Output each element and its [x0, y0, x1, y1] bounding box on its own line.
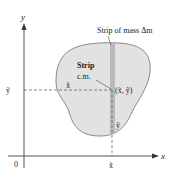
x-tilde-axis-label: x̃ — [109, 161, 113, 170]
y-axis-arrow-icon — [22, 23, 27, 30]
x-axis-arrow-icon — [152, 154, 159, 159]
x-tilde-inside-label: x̃ — [66, 81, 70, 90]
strip-cm-label-line2: c.m. — [77, 72, 91, 81]
plate-region — [56, 43, 150, 136]
strip-cm-label-line1: Strip — [77, 61, 95, 70]
x-axis-label: x — [160, 151, 165, 161]
y-axis-label: y — [20, 12, 25, 22]
y-tilde-axis-label: ỹ — [6, 86, 10, 95]
y-tilde-inside-label: ỹ — [116, 121, 120, 130]
strip-mass-label: Strip of mass Δm — [97, 26, 153, 35]
diagram-canvas: y x 0 Strip of mass Δm Strip c.m. (x̃, y… — [0, 0, 180, 182]
origin-label: 0 — [14, 160, 18, 169]
center-point-label: (x̃, ỹ) — [115, 86, 133, 95]
